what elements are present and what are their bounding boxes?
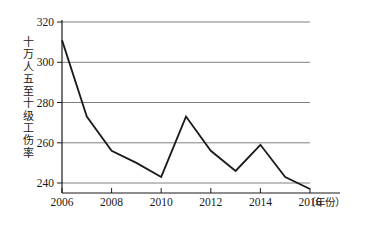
y-axis-title: 十万人五至十级工伤率 <box>18 36 38 159</box>
x-tick-label-2006: 2006 <box>51 196 74 208</box>
x-tick-label-2014: 2014 <box>249 196 272 208</box>
y-tick-label-280: 280 <box>37 97 55 109</box>
y-tick-label-320: 320 <box>37 16 55 28</box>
y-tick-label-300: 300 <box>37 56 55 68</box>
x-tick-label-2008: 2008 <box>100 196 123 208</box>
x-tick-label-2012: 2012 <box>199 196 222 208</box>
x-tick-label-2010: 2010 <box>150 196 173 208</box>
x-axis-unit-label: （年份） <box>305 196 345 208</box>
chart-canvas: 320 300 280 260 240 2006 2008 2010 2012 … <box>0 0 367 225</box>
y-tick-label-240: 240 <box>37 177 55 189</box>
chart-background <box>0 0 367 225</box>
line-chart: 十万人五至十级工伤率 320 300 280 260 240 <box>0 0 367 225</box>
y-tick-label-260: 260 <box>37 137 55 149</box>
